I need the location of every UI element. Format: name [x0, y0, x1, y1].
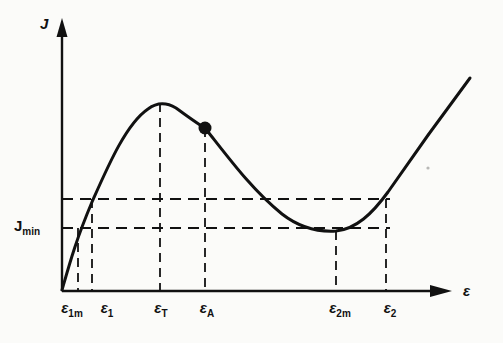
figure-container: J ε Jmin ε1m ε1 εT εA ε2m ε2	[0, 0, 503, 343]
x-tick-label-eps-T-sub: T	[162, 308, 168, 319]
x-tick-label-eps-1m: ε1m	[61, 300, 83, 315]
x-tick-label-eps-A-sub: A	[207, 308, 214, 319]
x-axis-arrowhead	[430, 285, 452, 297]
operating-point-marker	[199, 122, 212, 135]
x-tick-label-eps-2m-sub: 2m	[336, 308, 350, 319]
plot-canvas	[0, 0, 503, 343]
x-tick-label-eps-1-sub: 1	[108, 308, 114, 319]
x-tick-label-eps-2-sub: 2	[391, 308, 397, 319]
y-tick-label-jmin-sub: min	[22, 226, 40, 237]
x-tick-label-eps-A: εA	[200, 300, 214, 315]
x-tick-label-eps-2: ε2	[384, 300, 397, 315]
y-axis-label: J	[40, 16, 48, 31]
x-axis-label: ε	[463, 283, 470, 298]
j-curve	[62, 78, 470, 290]
scan-speck	[426, 166, 429, 169]
x-tick-label-eps-T: εT	[154, 300, 167, 315]
x-tick-label-eps-1m-sub: 1m	[68, 308, 82, 319]
y-axis-arrowhead	[57, 18, 68, 37]
x-tick-label-eps-1: ε1	[101, 300, 114, 315]
y-tick-label-jmin: Jmin	[14, 218, 40, 233]
x-tick-label-eps-2m: ε2m	[329, 300, 351, 315]
